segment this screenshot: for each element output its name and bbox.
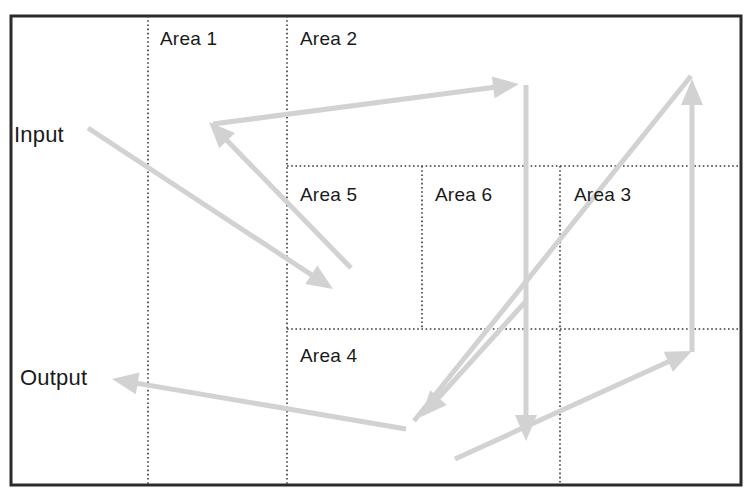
arrow-head [492, 76, 519, 98]
arrow-layer [88, 76, 703, 459]
diagram-frame [11, 16, 741, 485]
frame-layer [11, 16, 741, 485]
arrow-area3-vertical-up [681, 79, 703, 352]
area-4-label: Area 4 [300, 345, 357, 367]
input-label: Input [14, 122, 64, 148]
arrow-shaft [213, 87, 496, 124]
arrow-area4-to-output [112, 373, 406, 429]
output-label: Output [20, 365, 87, 391]
arrow-shaft [135, 383, 406, 429]
arrow-head [112, 373, 139, 395]
area-5-label: Area 5 [300, 184, 357, 206]
arrow-shaft [88, 128, 314, 276]
divider-layer [148, 16, 741, 485]
area-6-label: Area 6 [435, 184, 492, 206]
area-3-label: Area 3 [574, 184, 631, 206]
arrow-head [305, 266, 333, 289]
arrow-shaft [436, 300, 527, 400]
area-1-label: Area 1 [160, 28, 217, 50]
arrow-diagonal-to-area4 [421, 300, 527, 417]
arrow-area1-to-area2-right [213, 76, 519, 124]
arrow-shaft [455, 361, 671, 459]
diagram-canvas: Input Output Area 1 Area 2 Area 5 Area 6… [0, 0, 752, 498]
arrow-area2-down-to-area4 [515, 85, 537, 441]
arrow-bottom-to-area3 [455, 351, 692, 459]
area-2-label: Area 2 [300, 28, 357, 50]
diagram-svg [0, 0, 752, 498]
